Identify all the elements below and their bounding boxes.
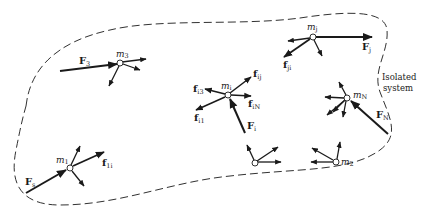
force-f1i-arrow	[73, 152, 104, 166]
label-F3: F3	[79, 55, 90, 68]
particle-unlabeled	[247, 145, 281, 166]
label-fi3: fi3	[193, 83, 204, 96]
force-arrow	[312, 148, 333, 160]
label-mi: mi	[221, 81, 232, 92]
label-fij: fij	[253, 68, 261, 81]
label-fji: fji	[283, 59, 291, 72]
force-fiN-arrow	[231, 95, 251, 96]
force-arrow	[339, 82, 346, 95]
mass-point	[310, 34, 316, 40]
force-arrow	[257, 147, 278, 161]
force-fij-arrow	[230, 77, 251, 93]
isolated-system-label-line2: system	[383, 83, 413, 93]
force-arrow	[325, 97, 344, 98]
particle-m2: m2	[311, 142, 354, 168]
force-arrow	[333, 100, 345, 112]
force-fi1-arrow	[196, 97, 225, 110]
external-force-Fi-arrow	[230, 99, 245, 133]
particle-mj: mj Fj fji	[283, 22, 372, 72]
label-m3: m3	[116, 49, 129, 60]
label-mj: mj	[307, 22, 318, 33]
label-m1: m1	[56, 155, 69, 166]
force-fji-arrow	[284, 39, 310, 57]
force-arrow	[337, 142, 340, 159]
mass-point	[225, 92, 231, 98]
particle-mi: mi fij fiN fi3 fi1 Fi	[193, 68, 261, 133]
mass-point	[333, 159, 339, 165]
label-mN: mN	[353, 90, 368, 101]
mass-point	[252, 160, 258, 166]
label-FN: FN	[376, 109, 389, 122]
label-f1i: f1i	[102, 157, 113, 170]
label-Fj: Fj	[362, 41, 371, 54]
label-Fs: Fs	[25, 176, 35, 189]
force-arrow	[123, 64, 140, 70]
particle-m1: m1 f1i Fs	[25, 146, 113, 193]
force-arrow	[71, 146, 80, 165]
label-m2: m2	[341, 157, 354, 168]
force-arrow	[343, 101, 346, 117]
mass-point	[117, 60, 123, 66]
label-Fi: Fi	[247, 120, 256, 133]
force-arrow	[109, 66, 119, 86]
isolated-system-diagram: F3 m3 mi fij fiN fi3 fi1 Fi mj Fj fji	[0, 0, 425, 219]
mass-point	[344, 95, 350, 101]
label-fi1: fi1	[194, 112, 205, 125]
force-arrow	[314, 40, 322, 56]
label-fiN: fiN	[248, 98, 260, 111]
force-arrow	[247, 145, 254, 160]
particle-m3: F3 m3	[60, 49, 146, 86]
isolated-system-label-line1: Isolated	[382, 72, 417, 82]
force-arrow	[72, 171, 84, 186]
